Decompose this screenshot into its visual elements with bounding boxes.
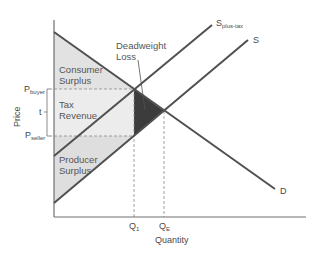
tax-revenue-line2: Revenue — [59, 110, 97, 121]
deadweight-loss-area — [134, 89, 164, 136]
supply-plus-tax-label-sub: plus-tax — [222, 23, 243, 29]
p-buyer-sub: buyer — [30, 89, 45, 95]
q1-label: Q1 — [129, 221, 139, 234]
consumer-surplus-label: Consumer Surplus — [59, 64, 103, 86]
p-buyer-label: Pbuyer — [24, 84, 45, 97]
consumer-surplus-line1: Consumer — [59, 64, 103, 75]
p-seller-label: Pseller — [25, 130, 45, 143]
deadweight-loss-line1: Deadweight — [116, 40, 166, 51]
p-seller-sub: seller — [31, 135, 45, 141]
tax-label: t — [39, 107, 42, 117]
q1-main: Q — [129, 221, 136, 231]
qe-label: QE — [159, 221, 170, 234]
supply-label: S — [253, 35, 259, 45]
supply-plus-tax-label: Splus-tax — [216, 18, 243, 31]
tax-revenue-label: Tax Revenue — [59, 99, 97, 121]
producer-surplus-line1: Producer — [59, 154, 98, 165]
x-axis-title: Quantity — [155, 235, 189, 245]
tax-incidence-diagram — [0, 0, 316, 254]
tax-bracket — [47, 89, 52, 136]
y-axis-title: Price — [12, 106, 22, 127]
consumer-surplus-line2: Surplus — [59, 75, 103, 86]
producer-surplus-line2: Surplus — [59, 165, 98, 176]
tax-revenue-line1: Tax — [59, 99, 97, 110]
q1-sub: 1 — [136, 226, 139, 232]
demand-label: D — [280, 186, 287, 196]
deadweight-loss-line2: Loss — [116, 51, 166, 62]
qe-main: Q — [159, 221, 166, 231]
qe-sub: E — [166, 226, 170, 232]
deadweight-loss-label: Deadweight Loss — [116, 40, 166, 62]
producer-surplus-label: Producer Surplus — [59, 154, 98, 176]
